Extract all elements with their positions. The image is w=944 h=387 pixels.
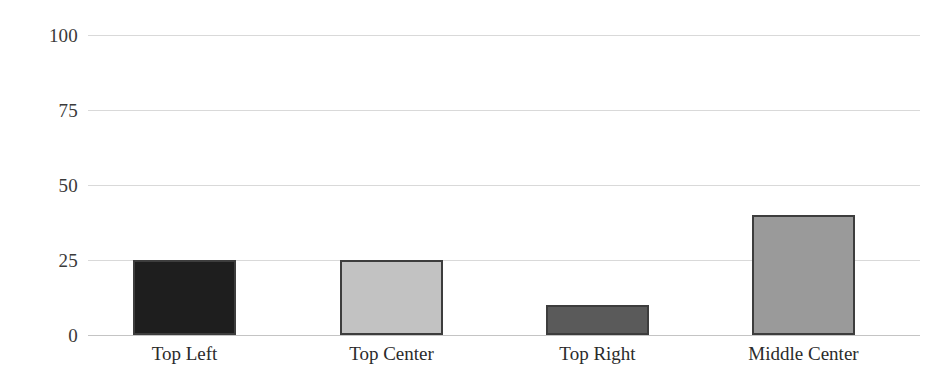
bar-top-right[interactable]: [546, 305, 649, 335]
bar-middle-center[interactable]: [752, 215, 855, 335]
x-axis-label-top-left: Top Left: [105, 343, 264, 365]
bar-chart: 100 75 50 25 0 25% Top Left 25% Top Cent…: [0, 0, 944, 387]
x-axis-label-top-right: Top Right: [518, 343, 677, 365]
x-axis-label-top-center: Top Center: [312, 343, 471, 365]
plot-area: 25% Top Left 25% Top Center 10% Top Righ…: [0, 0, 944, 387]
bar-top-left[interactable]: [133, 260, 236, 335]
x-axis-label-middle-center: Middle Center: [724, 343, 883, 365]
bar-top-center[interactable]: [340, 260, 443, 335]
